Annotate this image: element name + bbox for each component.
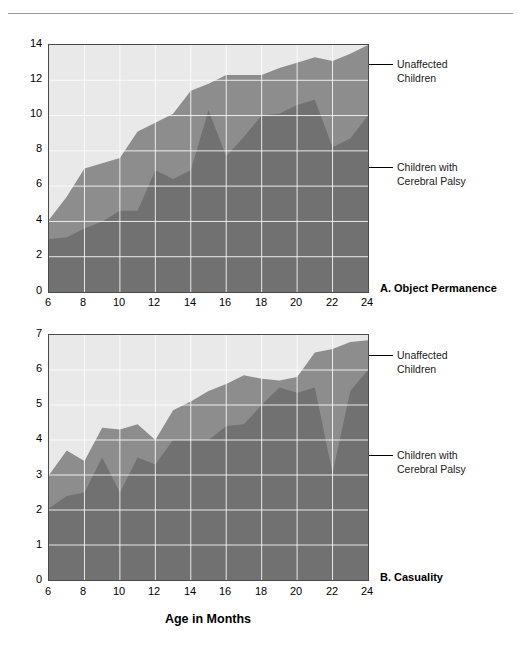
x-tick-b-5: 16 xyxy=(215,586,235,597)
panel-title-a: A. Object Permanence xyxy=(380,282,497,294)
x-tick-b-1: 8 xyxy=(73,586,93,597)
legend-a-unaffected-line1: Unaffected xyxy=(397,58,448,70)
x-tick-b-8: 22 xyxy=(322,586,342,597)
y-tick-a-6: 2 xyxy=(16,249,42,260)
y-tick-b-0: 7 xyxy=(16,328,42,339)
x-tick-a-0: 6 xyxy=(38,297,58,308)
y-tick-b-4: 3 xyxy=(16,469,42,480)
y-tick-a-0: 14 xyxy=(16,38,42,49)
x-tick-a-9: 24 xyxy=(357,297,377,308)
legend-a-cp-line2: Cerebral Palsy xyxy=(397,175,466,187)
legend-b-cp-line1: Children with xyxy=(397,449,458,461)
y-tick-a-3: 8 xyxy=(16,143,42,154)
legend-a-cp-line1: Children with xyxy=(397,161,458,173)
plot-area-b xyxy=(48,334,369,581)
x-tick-b-0: 6 xyxy=(38,586,58,597)
x-tick-a-6: 18 xyxy=(251,297,271,308)
callout-line-b-unaffected xyxy=(369,355,393,356)
y-tick-b-3: 4 xyxy=(16,433,42,444)
legend-a-unaffected: Unaffected Children xyxy=(397,57,448,85)
chart-panel-b: 7 6 5 4 3 2 1 0 6 8 10 12 14 16 18 20 22… xyxy=(0,310,521,649)
y-tick-b-1: 6 xyxy=(16,363,42,374)
legend-b-unaffected: Unaffected Children xyxy=(397,348,448,376)
y-tick-a-5: 4 xyxy=(16,214,42,225)
x-tick-a-8: 22 xyxy=(322,297,342,308)
x-tick-b-4: 14 xyxy=(180,586,200,597)
y-tick-a-1: 12 xyxy=(16,73,42,84)
y-tick-b-7: 0 xyxy=(16,574,42,585)
x-tick-b-6: 18 xyxy=(251,586,271,597)
figure-page: 14 12 10 8 6 4 2 0 6 8 10 12 14 16 18 20… xyxy=(0,0,521,649)
x-tick-a-5: 16 xyxy=(215,297,235,308)
legend-b-unaffected-line2: Children xyxy=(397,363,436,375)
x-tick-a-4: 14 xyxy=(180,297,200,308)
y-tick-a-4: 6 xyxy=(16,178,42,189)
y-tick-a-2: 10 xyxy=(16,108,42,119)
legend-b-unaffected-line1: Unaffected xyxy=(397,349,448,361)
legend-a-cp: Children with Cerebral Palsy xyxy=(397,160,466,188)
y-tick-b-6: 1 xyxy=(16,539,42,550)
legend-b-cp-line2: Cerebral Palsy xyxy=(397,463,466,475)
area-chart-a xyxy=(49,45,368,292)
legend-a-unaffected-line2: Children xyxy=(397,72,436,84)
y-tick-b-5: 2 xyxy=(16,504,42,515)
legend-b-cp: Children with Cerebral Palsy xyxy=(397,448,466,476)
plot-area-a xyxy=(48,44,369,293)
x-tick-a-3: 12 xyxy=(144,297,164,308)
area-chart-b xyxy=(49,335,368,580)
callout-line-a-cp xyxy=(369,167,393,168)
x-tick-b-7: 20 xyxy=(286,586,306,597)
chart-panel-a: 14 12 10 8 6 4 2 0 6 8 10 12 14 16 18 20… xyxy=(0,0,521,310)
panel-title-b: B. Casuality xyxy=(380,571,443,583)
callout-line-b-cp xyxy=(369,455,393,456)
x-tick-b-9: 24 xyxy=(357,586,377,597)
callout-line-a-unaffected xyxy=(369,64,393,65)
y-tick-a-7: 0 xyxy=(16,285,42,296)
x-tick-a-2: 10 xyxy=(109,297,129,308)
y-tick-b-2: 5 xyxy=(16,398,42,409)
x-tick-a-1: 8 xyxy=(73,297,93,308)
x-tick-a-7: 20 xyxy=(286,297,306,308)
x-tick-b-3: 12 xyxy=(144,586,164,597)
x-axis-title: Age in Months xyxy=(118,612,298,626)
x-tick-b-2: 10 xyxy=(109,586,129,597)
